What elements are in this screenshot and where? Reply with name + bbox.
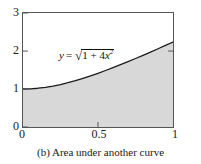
y-tick-label-3: 3 (0, 6, 19, 18)
x-tick-label-0-5: 0.5 (87, 128, 111, 140)
x-tick-label-1: 1 (163, 128, 187, 140)
figure-caption: (b) Area under another curve (0, 146, 201, 159)
x-tick-label-0: 0 (10, 128, 34, 140)
figure-area-under-curve: 3 2 1 0 0 0.5 1 (0, 0, 201, 164)
plot-svg (23, 13, 173, 127)
y-tick-label-1: 1 (0, 82, 19, 94)
equation-lhs: y (59, 49, 64, 61)
y-tick-label-2: 2 (0, 44, 19, 56)
plot-area (22, 12, 174, 128)
radicand: 1 + 4x2 (81, 49, 114, 61)
equation-equals: = (66, 49, 72, 61)
curve-equation-label: y=√1 + 4x2 (59, 49, 114, 62)
square-root-expression: √1 + 4x2 (74, 49, 114, 62)
radicand-terms: 1 + 4 (82, 49, 105, 61)
radicand-exponent: 2 (110, 48, 114, 56)
